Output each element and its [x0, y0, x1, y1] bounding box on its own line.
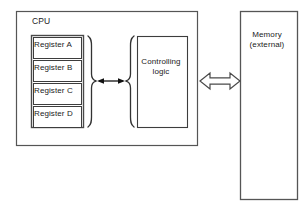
- left-curly-brace-icon: [126, 36, 134, 127]
- right-curly-brace-icon: [88, 36, 96, 127]
- register-label-b: Register B: [34, 63, 82, 73]
- controlling-logic-label-line1: Controlling: [138, 57, 184, 67]
- cpu-label: CPU: [32, 17, 50, 27]
- register-label-d: Register D: [34, 109, 82, 119]
- memory-label-line1: Memory: [240, 30, 294, 40]
- double-headed-arrow-icon: [97, 78, 125, 84]
- controlling-logic-box: [138, 37, 188, 128]
- memory-label: Memory (external): [240, 30, 294, 49]
- memory-label-line2: (external): [240, 40, 294, 50]
- register-label-c: Register C: [34, 86, 82, 96]
- block-diagram: CPU Register A Register B Register C Reg…: [0, 0, 308, 212]
- controlling-logic-label: Controlling logic: [138, 57, 184, 76]
- hollow-double-headed-arrow-icon: [200, 73, 240, 89]
- register-label-a: Register A: [34, 40, 82, 50]
- controlling-logic-label-line2: logic: [138, 67, 184, 77]
